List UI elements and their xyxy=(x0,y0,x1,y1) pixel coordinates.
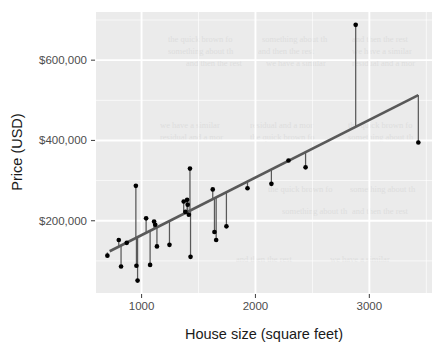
data-point xyxy=(212,230,217,235)
ghost-text-fragment: the quick brown fo xyxy=(168,34,232,44)
ghost-text-fragment: something about th xyxy=(350,184,416,194)
ghost-text-fragment: and then the rest xyxy=(236,254,293,264)
data-point xyxy=(269,181,274,186)
data-point xyxy=(185,198,190,203)
data-point xyxy=(188,166,193,171)
data-point xyxy=(214,238,219,243)
ghost-text-fragment: we have a similar xyxy=(160,120,220,130)
y-axis-title: Price (USD) xyxy=(9,113,25,190)
plot-svg: the quick brown fosomething about thand … xyxy=(0,0,443,349)
data-point xyxy=(303,165,308,170)
data-point xyxy=(416,140,421,145)
x-axis-title: House size (square feet) xyxy=(185,326,343,342)
ghost-text-fragment: something about th xyxy=(282,206,348,216)
ghost-text-fragment: residual and a mor xyxy=(250,120,313,130)
data-point xyxy=(286,158,291,163)
ghost-text-fragment: and then the rest xyxy=(258,46,315,56)
data-point xyxy=(153,222,158,227)
ghost-text-fragment: we have a similar xyxy=(330,254,390,264)
data-point xyxy=(134,263,139,268)
data-point xyxy=(135,278,140,283)
data-point xyxy=(148,263,153,268)
ghost-text-fragment: and then the rest xyxy=(352,34,409,44)
ghost-text-fragment: something about th xyxy=(168,46,234,56)
data-point xyxy=(144,216,149,221)
data-point xyxy=(167,243,172,248)
data-point xyxy=(124,240,129,245)
data-point xyxy=(188,255,193,260)
data-point xyxy=(134,183,139,188)
x-axis-tick-label: 2000 xyxy=(243,300,269,312)
data-point xyxy=(119,264,124,269)
y-axis-tick-label: $400,000 xyxy=(39,134,87,146)
ghost-text-fragment: we have a similar xyxy=(352,46,412,56)
data-point xyxy=(187,212,192,217)
data-point xyxy=(224,224,229,229)
data-point xyxy=(210,187,215,192)
ghost-text-fragment: something about th xyxy=(262,34,328,44)
y-axis-tick-label: $600,000 xyxy=(39,54,87,66)
ghost-text-fragment: the quick brown fo xyxy=(268,184,332,194)
data-point xyxy=(116,238,121,243)
data-point xyxy=(353,23,358,28)
residual-scatter-chart: the quick brown fosomething about thand … xyxy=(0,0,443,349)
data-point xyxy=(105,253,110,258)
x-axis-tick-label: 3000 xyxy=(357,300,383,312)
data-point xyxy=(185,202,190,207)
x-axis-tick-label: 1000 xyxy=(129,300,155,312)
data-point xyxy=(245,186,250,191)
ghost-text-fragment: and then the rest xyxy=(352,206,409,216)
y-axis-tick-label: $200,000 xyxy=(39,215,87,227)
data-point xyxy=(155,244,160,249)
